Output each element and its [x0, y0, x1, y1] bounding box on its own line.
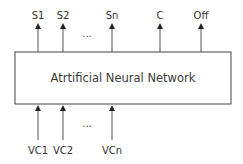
input-label-vc1: VC1	[28, 145, 48, 156]
output-label-s2: S2	[57, 10, 70, 21]
arrowhead-icon	[198, 23, 204, 29]
output-label-c: C	[157, 10, 164, 21]
output-ellipsis: ...	[82, 28, 92, 39]
arrowhead-icon	[109, 105, 115, 111]
input-arrows	[35, 105, 115, 140]
arrowhead-icon	[157, 23, 163, 29]
output-label-s1: S1	[32, 10, 45, 21]
output-label-off: Off	[194, 10, 210, 21]
ann-diagram: Atrtificial Neural Network S1 S2 Sn C Of…	[0, 0, 243, 164]
output-label-sn: Sn	[106, 10, 119, 21]
arrowhead-icon	[35, 23, 41, 29]
input-label-vcn: VCn	[102, 145, 122, 156]
output-arrows	[35, 23, 204, 52]
arrowhead-icon	[109, 23, 115, 29]
arrowhead-icon	[35, 105, 41, 111]
input-ellipsis: ...	[82, 118, 92, 129]
neural-network-label: Atrtificial Neural Network	[51, 71, 196, 85]
input-label-vc2: VC2	[53, 145, 73, 156]
arrowhead-icon	[60, 23, 66, 29]
arrowhead-icon	[60, 105, 66, 111]
